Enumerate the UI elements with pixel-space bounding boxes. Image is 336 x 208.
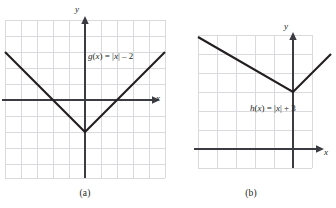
panel-caption-a: (a) — [0, 188, 170, 198]
curve-h — [198, 37, 331, 92]
x-axis-b — [194, 145, 324, 152]
equation-h-constant: 3 — [291, 103, 296, 113]
x-axis-label-a: x — [156, 94, 160, 103]
graph-svg-a — [0, 0, 170, 186]
plot-area-a — [0, 0, 170, 186]
panel-a: y x g(x) = |x| – 2 (a) — [0, 0, 170, 208]
equation-h-equals: = — [265, 103, 275, 113]
plot-area-b — [166, 0, 336, 186]
graph-svg-b — [166, 0, 336, 186]
y-axis-b — [289, 32, 296, 168]
y-axis-label-b: y — [284, 22, 288, 31]
x-axis-label-b: x — [324, 148, 328, 157]
equation-label-h: h(x) = |x| + 3 — [250, 104, 296, 113]
figure-root: y x g(x) = |x| – 2 (a) — [0, 0, 336, 208]
equation-h-operator: + — [282, 103, 292, 113]
x-axis-a — [2, 96, 160, 103]
panel-caption-b: (b) — [166, 188, 336, 198]
equation-g-operator: – — [120, 51, 129, 61]
y-axis-a — [81, 16, 88, 178]
panel-b: y x h(x) = |x| + 3 (b) — [166, 0, 336, 208]
equation-g-constant: 2 — [129, 51, 134, 61]
grid-lines-b — [198, 35, 312, 168]
equation-label-g: g(x) = |x| – 2 — [88, 52, 133, 61]
equation-g-equals: = — [103, 51, 113, 61]
y-axis-label-a: y — [75, 5, 79, 14]
